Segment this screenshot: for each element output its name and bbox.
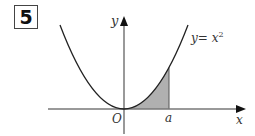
curve-equation-base: y= x (190, 31, 219, 45)
x-axis-arrow-icon (236, 105, 246, 113)
shaded-area (124, 68, 169, 110)
origin-label: O (112, 112, 122, 126)
y-axis-arrow-icon (120, 16, 128, 26)
parabola-graph: y x O a y= x2 (0, 0, 255, 136)
point-a-label: a (165, 111, 172, 125)
curve-equation-exponent: 2 (218, 30, 223, 39)
x-axis-label: x (236, 113, 243, 127)
curve-equation-label: y= x2 (190, 30, 224, 45)
y-axis-label: y (110, 13, 119, 28)
